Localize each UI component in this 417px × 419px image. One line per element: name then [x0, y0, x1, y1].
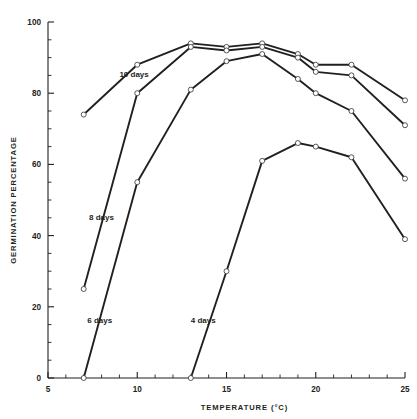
- data-point: [313, 62, 318, 67]
- x-tick-label: 15: [222, 385, 232, 394]
- y-axis-tick-labels: 020406080100: [27, 18, 41, 383]
- series-label-8-days: 8 days: [89, 213, 114, 222]
- data-point: [313, 144, 318, 149]
- data-point: [403, 176, 408, 181]
- data-point: [260, 52, 265, 57]
- data-point: [224, 59, 229, 64]
- data-point: [224, 269, 229, 274]
- data-point: [313, 69, 318, 74]
- y-axis-title: GERMINATION PERCENTAGE: [9, 136, 18, 264]
- series-label-6-days: 6 days: [87, 316, 112, 325]
- data-point: [81, 112, 86, 117]
- series-line-8-days: [84, 47, 405, 289]
- x-axis-group: 510152025 TEMPERATURE (°C): [46, 372, 410, 412]
- y-axis-ticks: [48, 22, 54, 378]
- series-lines-group: [84, 43, 405, 378]
- data-point: [188, 44, 193, 49]
- data-point: [135, 62, 140, 67]
- series-label-10-days: 10 days: [119, 70, 149, 79]
- data-point: [349, 109, 354, 114]
- y-tick-label: 80: [32, 89, 42, 98]
- data-point: [81, 376, 86, 381]
- data-point: [260, 158, 265, 163]
- y-axis-group: 020406080100 GERMINATION PERCENTAGE: [9, 18, 54, 383]
- data-point: [295, 141, 300, 146]
- x-tick-label: 20: [311, 385, 321, 394]
- data-point: [188, 87, 193, 92]
- y-tick-label: 100: [27, 18, 41, 27]
- data-point: [260, 44, 265, 49]
- y-tick-label: 60: [32, 160, 42, 169]
- data-point: [295, 76, 300, 81]
- data-point: [295, 55, 300, 60]
- data-point: [349, 73, 354, 78]
- x-axis-ticks: [48, 372, 405, 378]
- x-axis-tick-labels: 510152025: [46, 385, 410, 394]
- x-tick-label: 5: [46, 385, 51, 394]
- data-point: [135, 180, 140, 185]
- series-inline-labels: 10 days8 days6 days4 days: [87, 70, 216, 325]
- data-point: [403, 237, 408, 242]
- series-label-4-days: 4 days: [191, 316, 216, 325]
- x-tick-label: 10: [133, 385, 143, 394]
- data-point: [81, 287, 86, 292]
- data-point: [313, 91, 318, 96]
- data-point: [403, 98, 408, 103]
- data-point: [188, 376, 193, 381]
- data-point: [403, 123, 408, 128]
- y-tick-label: 0: [36, 374, 41, 383]
- y-tick-label: 40: [32, 232, 42, 241]
- data-point: [349, 62, 354, 67]
- x-tick-label: 25: [400, 385, 410, 394]
- data-point: [224, 48, 229, 53]
- germination-chart: 020406080100 GERMINATION PERCENTAGE 5101…: [0, 0, 417, 419]
- y-tick-label: 20: [32, 303, 42, 312]
- data-point: [349, 155, 354, 160]
- x-axis-title: TEMPERATURE (°C): [201, 403, 288, 412]
- series-line-4-days: [191, 143, 405, 378]
- chart-plot-area: 020406080100 GERMINATION PERCENTAGE 5101…: [0, 0, 417, 419]
- data-point: [135, 91, 140, 96]
